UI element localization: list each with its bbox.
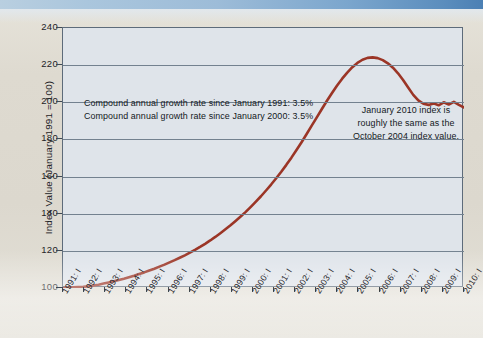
- y-axis-title: Index Value (January 1991 = 100): [43, 48, 54, 268]
- y-axis-tick-mark: [56, 101, 62, 102]
- y-axis-tick-label: 140: [28, 207, 58, 218]
- gridline: [63, 177, 464, 178]
- annotation-line: Compound annual growth rate since Januar…: [84, 110, 313, 123]
- annotation-line: Compound annual growth rate since Januar…: [84, 97, 313, 110]
- y-axis-tick-label: 220: [28, 58, 58, 69]
- gridline: [63, 65, 464, 66]
- y-axis-tick-label: 240: [28, 21, 58, 32]
- scan-edge-strip: [0, 0, 483, 9]
- annotation-line: roughly the same as the: [352, 117, 460, 130]
- y-axis-tick-mark: [56, 250, 62, 251]
- scan-glare: [0, 250, 483, 338]
- plot-area: [62, 27, 463, 287]
- y-axis-tick-label: 160: [28, 170, 58, 181]
- y-axis-tick-mark: [56, 138, 62, 139]
- annotation-line: January 2010 index is: [352, 104, 460, 117]
- y-axis-tick-label: 180: [28, 132, 58, 143]
- annotation-line: October 2004 index value.: [352, 130, 460, 143]
- y-axis-tick-label: 200: [28, 95, 58, 106]
- annotation-january-2010: January 2010 index isroughly the same as…: [352, 104, 460, 143]
- y-axis-tick-mark: [56, 64, 62, 65]
- y-axis-tick-mark: [56, 176, 62, 177]
- annotation-growth-rates: Compound annual growth rate since Januar…: [84, 97, 313, 123]
- gridline: [63, 214, 464, 215]
- scan-edge-fade: [0, 9, 483, 23]
- y-axis-tick-mark: [56, 213, 62, 214]
- y-axis-tick-mark: [56, 27, 62, 28]
- data-series-line: [63, 28, 464, 288]
